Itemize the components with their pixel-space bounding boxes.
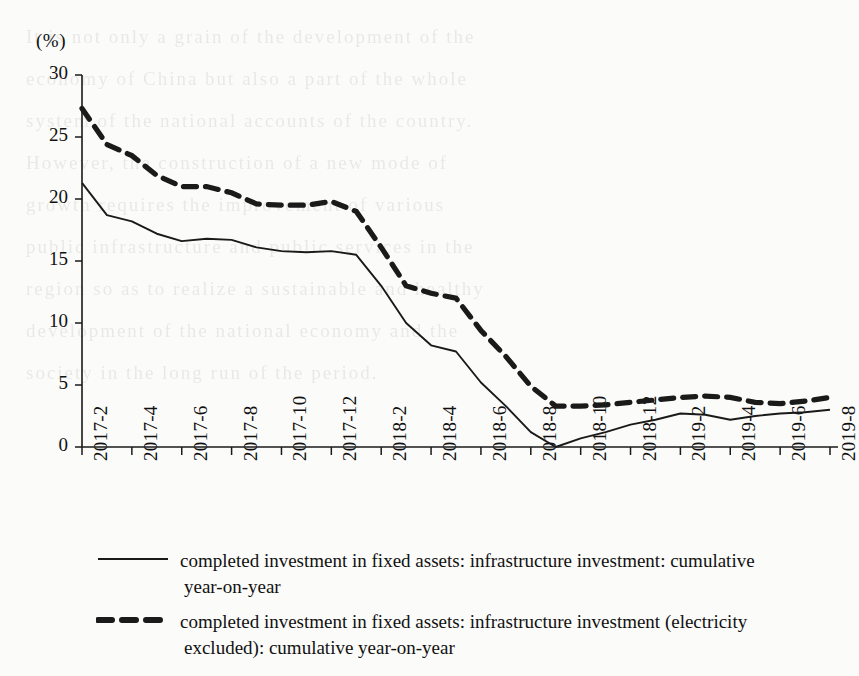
y-axis-ticks (75, 75, 82, 447)
legend-label-line2: excluded): cumulative year-on-year (180, 635, 747, 661)
legend-label-line1: completed investment in fixed assets: in… (180, 550, 755, 571)
legend-label-infrastructure-excl-electricity: completed investment in fixed assets: in… (180, 609, 747, 661)
legend-item-infrastructure: completed investment in fixed assets: in… (96, 548, 836, 600)
chart-figure: It is not only a grain of the developmen… (0, 0, 859, 676)
series-line-infrastructure-excl-electricity (82, 108, 830, 406)
chart-legend: completed investment in fixed assets: in… (96, 548, 836, 670)
legend-label-infrastructure: completed investment in fixed assets: in… (180, 548, 755, 600)
legend-swatch-solid-line (96, 548, 170, 570)
series-line-infrastructure (82, 183, 830, 447)
legend-item-infrastructure-excl-electricity: completed investment in fixed assets: in… (96, 609, 836, 661)
legend-swatch-dashed-line (96, 609, 170, 631)
legend-label-line1: completed investment in fixed assets: in… (180, 611, 747, 632)
legend-label-line2: year-on-year (180, 574, 755, 600)
x-axis-ticks (82, 447, 830, 455)
